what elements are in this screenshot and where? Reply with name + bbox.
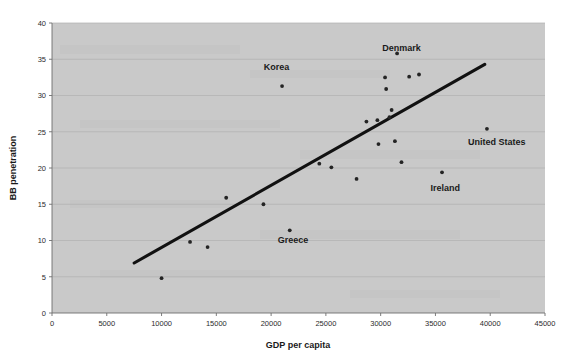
- scatter-plot: 0510152025303540 05000100001500020000250…: [0, 0, 575, 356]
- x-tick-label-20000: 20000: [261, 319, 282, 328]
- data-point-united-states: [485, 127, 489, 131]
- x-tick-label-0: 0: [50, 319, 54, 328]
- data-point-1: [188, 240, 192, 244]
- data-point-10: [365, 120, 369, 124]
- data-point-ireland: [440, 170, 444, 174]
- data-point-21: [417, 73, 421, 77]
- y-axis-title: BB penetration: [8, 136, 18, 201]
- x-tick-label-25000: 25000: [315, 319, 336, 328]
- x-tick-label-35000: 35000: [425, 319, 446, 328]
- data-point-2: [206, 245, 210, 249]
- x-axis-title: GDP per capita: [266, 340, 331, 350]
- data-point-greece: [288, 228, 292, 232]
- data-point-13: [383, 75, 387, 79]
- data-point-korea: [280, 84, 284, 88]
- x-tick-label-45000: 45000: [535, 319, 556, 328]
- data-point-16: [390, 108, 394, 112]
- data-point-0: [160, 276, 164, 280]
- y-tick-label-0: 0: [42, 309, 46, 318]
- y-tick-labels-group: 0510152025303540: [38, 19, 46, 318]
- x-tick-label-15000: 15000: [206, 319, 227, 328]
- y-tick-label-20: 20: [38, 164, 46, 173]
- data-point-15: [388, 115, 392, 119]
- chart-container: 0510152025303540 05000100001500020000250…: [0, 0, 575, 356]
- data-point-9: [355, 177, 359, 181]
- data-point-14: [384, 87, 388, 91]
- x-tick-marks-group: [52, 313, 545, 316]
- y-tick-label-15: 15: [38, 200, 46, 209]
- data-point-7: [317, 162, 321, 166]
- annotation-greece: Greece: [278, 235, 309, 245]
- x-tick-label-5000: 5000: [98, 319, 115, 328]
- y-tick-label-10: 10: [38, 236, 46, 245]
- data-point-4: [262, 202, 266, 206]
- x-tick-labels-group: 0500010000150002000025000300003500040000…: [50, 319, 556, 328]
- annotation-denmark: Denmark: [382, 43, 422, 53]
- x-tick-label-30000: 30000: [370, 319, 391, 328]
- data-point-17: [393, 139, 397, 143]
- y-tick-label-25: 25: [38, 128, 46, 137]
- data-point-19: [400, 160, 404, 164]
- annotation-ireland: Ireland: [431, 183, 461, 193]
- data-point-11: [375, 118, 379, 122]
- data-point-12: [377, 142, 381, 146]
- annotation-united-states: United States: [468, 137, 526, 147]
- y-tick-label-40: 40: [38, 19, 46, 28]
- data-point-8: [329, 165, 333, 169]
- annotation-korea: Korea: [264, 62, 291, 72]
- x-tick-label-10000: 10000: [151, 319, 172, 328]
- data-point-20: [407, 75, 411, 79]
- y-tick-label-30: 30: [38, 91, 46, 100]
- y-tick-label-5: 5: [42, 273, 46, 282]
- x-tick-label-40000: 40000: [480, 319, 501, 328]
- y-tick-label-35: 35: [38, 55, 46, 64]
- data-point-3: [224, 196, 228, 200]
